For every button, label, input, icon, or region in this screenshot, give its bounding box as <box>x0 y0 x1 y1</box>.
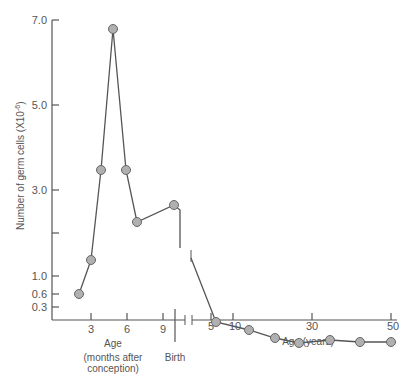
y-tick-0-3: 0.3 <box>32 301 47 313</box>
y-tick-7: 7.0 <box>32 14 47 26</box>
y-tick-1: 1.0 <box>32 270 47 282</box>
y-axis-title: Number of germ cells (X10-6) <box>14 101 26 230</box>
data-point <box>87 256 96 265</box>
germ-cell-chart: 7.0 5.0 3.0 1.0 0.6 0.3 Number of germ c… <box>0 0 411 387</box>
data-point <box>75 290 84 299</box>
data-point <box>97 166 106 175</box>
x-axis-prenatal-sub1: (months after <box>84 352 144 363</box>
y-tick-0-6: 0.6 <box>32 288 47 300</box>
series-prenatal <box>79 29 180 294</box>
data-point <box>326 336 335 345</box>
x-tick-9mo: 9 <box>160 323 166 335</box>
data-point <box>295 339 304 348</box>
data-point <box>271 334 280 343</box>
data-point <box>133 218 142 227</box>
birth-label: Birth <box>165 352 186 363</box>
y-tick-5: 5.0 <box>32 99 47 111</box>
data-point-peak <box>109 25 118 34</box>
x-tick-50yr: 50 <box>387 320 399 332</box>
data-markers <box>75 25 396 348</box>
y-tick-3: 3.0 <box>32 184 47 196</box>
data-point <box>212 318 221 327</box>
data-point <box>245 326 254 335</box>
y-axis: 7.0 5.0 3.0 1.0 0.6 0.3 Number of germ c… <box>14 14 59 320</box>
series-postnatal <box>191 250 391 343</box>
data-point <box>356 338 365 347</box>
x-tick-3mo: 3 <box>88 323 94 335</box>
data-point <box>387 338 396 347</box>
x-axis-prenatal-sub2: conception) <box>87 363 139 374</box>
data-point <box>122 166 131 175</box>
x-tick-30yr: 30 <box>306 320 318 332</box>
x-tick-6mo: 6 <box>124 323 130 335</box>
data-point <box>170 201 179 210</box>
x-axis-prenatal-title: Age <box>104 338 122 349</box>
x-axis-prenatal: 3 6 9 Age (months after conception) Birt… <box>52 309 185 374</box>
